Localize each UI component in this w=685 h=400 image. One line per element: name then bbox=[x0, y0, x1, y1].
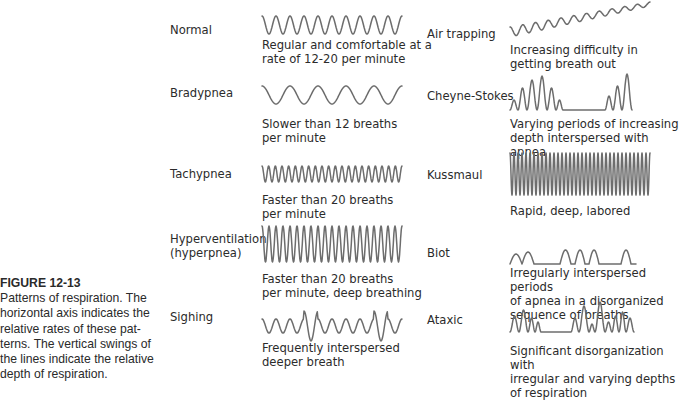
pattern-label-bradypnea: Bradypnea bbox=[170, 86, 233, 100]
pattern-desc-normal: Regular and comfortable at a rate of 12-… bbox=[262, 38, 432, 66]
figure-caption: FIGURE 12-13 Patterns of respiration. Th… bbox=[0, 276, 165, 382]
bradypnea-waveform bbox=[262, 84, 402, 106]
pattern-desc-tachypnea: Faster than 20 breaths per minute bbox=[262, 193, 393, 221]
tachypnea-waveform bbox=[262, 164, 402, 184]
pattern-label-sighing: Sighing bbox=[170, 310, 213, 324]
kussmaul-waveform bbox=[510, 152, 650, 196]
pattern-label-biot: Biot bbox=[427, 246, 450, 260]
hyperventilation-waveform bbox=[262, 225, 402, 263]
cheyne-stokes-waveform bbox=[510, 74, 650, 116]
pattern-label-air-trapping: Air trapping bbox=[427, 27, 496, 41]
pattern-label-kussmaul: Kussmaul bbox=[427, 168, 482, 182]
pattern-desc-kussmaul: Rapid, deep, labored bbox=[510, 204, 630, 218]
ataxic-waveform bbox=[510, 302, 650, 336]
figure-caption-text: Patterns of respiration. The horizontal … bbox=[0, 291, 154, 381]
pattern-label-normal: Normal bbox=[170, 23, 212, 37]
pattern-desc-ataxic: Significant disorganization with irregul… bbox=[510, 344, 685, 400]
pattern-desc-bradypnea: Slower than 12 breaths per minute bbox=[262, 117, 397, 145]
pattern-label-cheyne-stokes: Cheyne-Stokes bbox=[427, 89, 514, 103]
pattern-label-ataxic: Ataxic bbox=[427, 313, 463, 327]
figure-number: FIGURE 12-13 bbox=[0, 276, 165, 291]
pattern-label-hyperventilation: Hyperventilation (hyperpnea) bbox=[170, 232, 266, 260]
normal-waveform bbox=[262, 14, 402, 36]
air-trapping-waveform bbox=[510, 0, 650, 38]
pattern-desc-sighing: Frequently interspersed deeper breath bbox=[262, 341, 400, 369]
pattern-desc-air-trapping: Increasing difficulty in getting breath … bbox=[510, 43, 638, 71]
pattern-desc-hyperventilation: Faster than 20 breaths per minute, deep … bbox=[262, 272, 422, 300]
pattern-label-tachypnea: Tachypnea bbox=[170, 167, 232, 181]
sighing-waveform bbox=[262, 300, 402, 336]
biot-waveform bbox=[510, 244, 650, 266]
